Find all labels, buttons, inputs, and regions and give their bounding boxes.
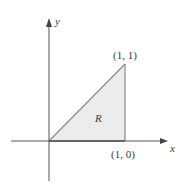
- coordinate-diagram: y x R (1, 1) (1, 0): [0, 0, 191, 191]
- point-label-1-0: (1, 0): [111, 148, 135, 161]
- x-axis-label: x: [169, 142, 175, 154]
- y-axis-label: y: [54, 15, 60, 27]
- x-axis-arrow-icon: [160, 138, 168, 144]
- y-axis-arrow-icon: [46, 18, 52, 27]
- region-label: R: [94, 112, 102, 124]
- point-label-1-1: (1, 1): [113, 49, 137, 62]
